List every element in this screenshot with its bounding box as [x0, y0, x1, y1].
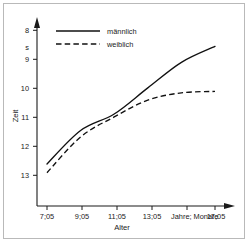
y-tick-label-10: 10 [21, 84, 29, 93]
chart-plot-area: 8 s 9 10 11 12 13 Zeit [4, 4, 246, 240]
x-tick-label-1: 7;05 [40, 212, 54, 221]
x-tick-label-4: 13;05 [143, 212, 162, 221]
line-chart: 8 s 9 10 11 12 13 Zeit [4, 4, 246, 240]
x-tick-group [47, 206, 215, 210]
chart-legend: männlich weiblich [56, 27, 137, 49]
x-axis-arrow-icon [224, 203, 235, 209]
x-tick-label-2: 9;05 [75, 212, 89, 221]
y-axis [34, 17, 40, 206]
y-tick-label-12: 12 [21, 142, 29, 151]
x-axis-title: Alter [114, 223, 130, 232]
x-tick-label-3: 11;05 [108, 212, 126, 221]
x-tick-labels: 7;05 9;05 11;05 13;05 Jahre; Monate 17;0… [40, 212, 225, 221]
series-line-weiblich [47, 91, 215, 172]
x-axis [37, 203, 235, 209]
y-unit-label: s [25, 43, 29, 52]
x-tick-label-5: 17;05 [207, 212, 226, 221]
legend-label-maennlich: männlich [107, 27, 137, 36]
series-line-maennlich [47, 46, 215, 164]
y-tick-label-11: 11 [21, 113, 29, 122]
y-tick-group: 8 s 9 10 11 12 13 [21, 26, 37, 180]
y-tick-label-8: 8 [25, 26, 29, 35]
y-tick-label-13: 13 [21, 171, 29, 180]
legend-label-weiblich: weiblich [106, 40, 133, 49]
y-axis-arrow-icon [34, 17, 40, 28]
y-axis-title: Zeit [11, 109, 20, 123]
figure-frame: 8 s 9 10 11 12 13 Zeit [3, 3, 245, 239]
y-tick-label-9: 9 [25, 55, 29, 64]
